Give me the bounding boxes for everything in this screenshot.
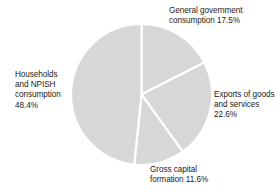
slice-label-households-and-npish-consumption: Households and NPISH consumption 48.4% xyxy=(15,70,81,111)
pie-chart-figure: General government consumption 17.5% Exp… xyxy=(0,0,277,195)
pie-slice-households-and-npish-consumption xyxy=(71,24,141,165)
slice-label-gross-capital-formation: Gross capital formation 11.6% xyxy=(150,165,236,185)
slice-label-exports-of-goods-and-services: Exports of goods and services 22.6% xyxy=(214,90,276,121)
slice-label-general-government-consumption: General government consumption 17.5% xyxy=(169,6,273,26)
pie-slice-group xyxy=(71,24,212,165)
